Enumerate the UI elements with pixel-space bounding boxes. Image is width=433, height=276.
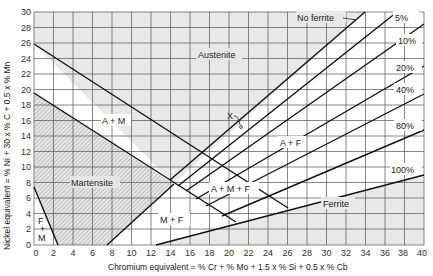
label-a-m: A + M bbox=[102, 116, 125, 126]
svg-text:16: 16 bbox=[185, 248, 195, 258]
label-ferrite: Ferrite bbox=[323, 199, 349, 209]
label-a-m-f: A + M + F bbox=[211, 184, 251, 194]
svg-text:10: 10 bbox=[21, 162, 31, 172]
svg-text:22: 22 bbox=[243, 248, 253, 258]
svg-text:8: 8 bbox=[109, 248, 114, 258]
label-f-m-bottom: M bbox=[38, 233, 46, 243]
svg-text:12: 12 bbox=[146, 248, 156, 258]
svg-text:8: 8 bbox=[26, 178, 31, 188]
svg-text:2: 2 bbox=[26, 224, 31, 234]
x-axis-title: Chromium equivalent = % Cr + % Mo + 1.5 … bbox=[108, 262, 348, 272]
x-mark-point bbox=[240, 126, 243, 129]
svg-text:16: 16 bbox=[21, 116, 31, 126]
svg-text:6: 6 bbox=[90, 248, 95, 258]
svg-text:28: 28 bbox=[21, 23, 31, 33]
svg-text:30: 30 bbox=[21, 7, 31, 17]
label-a-f: A + F bbox=[280, 138, 302, 148]
svg-text:24: 24 bbox=[263, 248, 273, 258]
svg-text:4: 4 bbox=[70, 248, 75, 258]
svg-text:0: 0 bbox=[26, 240, 31, 250]
label-ferrite-5: 5% bbox=[395, 13, 408, 23]
label-m-f: M + F bbox=[160, 215, 184, 225]
svg-text:30: 30 bbox=[321, 248, 331, 258]
label-x-mark: X bbox=[227, 111, 233, 121]
svg-text:0: 0 bbox=[33, 248, 38, 258]
svg-text:26: 26 bbox=[282, 248, 292, 258]
svg-text:14: 14 bbox=[165, 248, 175, 258]
svg-text:20: 20 bbox=[224, 248, 234, 258]
schaeffler-diagram: Austenite A + M Martensite F + M M + F A… bbox=[0, 0, 433, 276]
svg-text:12: 12 bbox=[21, 147, 31, 157]
svg-text:38: 38 bbox=[398, 248, 408, 258]
y-axis-ticks: 0 2 4 6 8 10 12 14 16 18 20 22 24 26 28 … bbox=[21, 7, 31, 250]
svg-text:28: 28 bbox=[302, 248, 312, 258]
svg-text:36: 36 bbox=[380, 248, 390, 258]
svg-text:18: 18 bbox=[204, 248, 214, 258]
x-axis-ticks: 0 2 4 6 8 10 12 14 16 18 20 22 24 26 28 … bbox=[33, 248, 427, 258]
svg-text:34: 34 bbox=[360, 248, 370, 258]
svg-text:14: 14 bbox=[21, 131, 31, 141]
svg-text:6: 6 bbox=[26, 193, 31, 203]
label-ferrite-20: 20% bbox=[396, 63, 414, 73]
label-ferrite-10: 10% bbox=[398, 36, 416, 46]
svg-text:32: 32 bbox=[341, 248, 351, 258]
svg-text:2: 2 bbox=[51, 248, 56, 258]
label-martensite: Martensite bbox=[71, 178, 113, 188]
svg-text:24: 24 bbox=[21, 54, 31, 64]
svg-text:26: 26 bbox=[21, 38, 31, 48]
svg-text:4: 4 bbox=[26, 209, 31, 219]
label-austenite: Austenite bbox=[198, 50, 236, 60]
label-ferrite-100: 100% bbox=[391, 165, 414, 175]
svg-text:10: 10 bbox=[126, 248, 136, 258]
label-ferrite-40: 40% bbox=[396, 85, 414, 95]
svg-text:22: 22 bbox=[21, 69, 31, 79]
label-ferrite-80: 80% bbox=[396, 121, 414, 131]
y-axis-title: Nickel equivalent = % Ni + 30 x % C + 0.… bbox=[2, 61, 12, 250]
svg-text:20: 20 bbox=[21, 85, 31, 95]
svg-text:40: 40 bbox=[417, 248, 427, 258]
label-no-ferrite: No ferrite bbox=[297, 13, 334, 23]
svg-text:18: 18 bbox=[21, 100, 31, 110]
